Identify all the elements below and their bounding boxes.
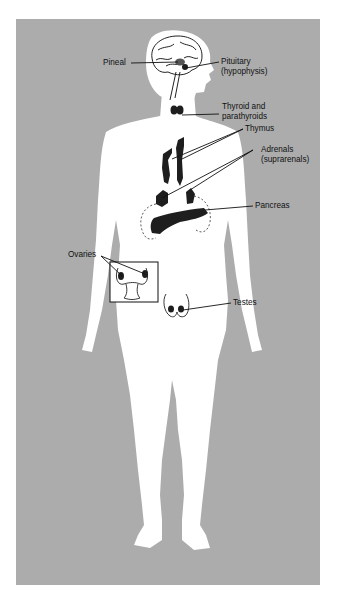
label-thyroid-line1: Thyroid and [222,102,267,112]
label-ovaries: Ovaries [68,250,96,260]
label-pituitary-line1: Pituitary [221,57,267,67]
label-pituitary-line2: (hypophysis) [221,67,267,77]
label-thyroid-line2: parathyroids [222,112,267,122]
label-pituitary: Pituitary (hypophysis) [221,57,267,76]
pituitary-gland [182,64,188,70]
label-adrenals-line1: Adrenals [261,145,309,155]
label-thyroid: Thyroid and parathyroids [222,102,267,121]
label-pineal: Pineal [103,58,126,68]
label-adrenals-line2: (suprarenals) [261,155,309,165]
label-adrenals: Adrenals (suprarenals) [261,145,309,164]
label-pancreas: Pancreas [255,201,290,211]
endocrine-figure [0,0,337,596]
label-testes: Testes [233,298,257,308]
label-thymus: Thymus [245,124,274,134]
